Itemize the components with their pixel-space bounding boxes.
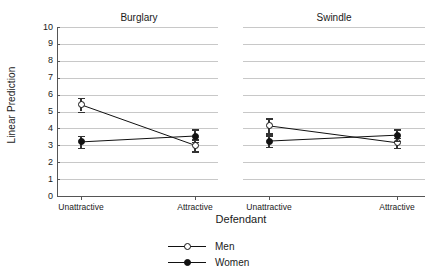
legend-marker-icon: [168, 240, 206, 252]
data-point-women: [78, 138, 85, 145]
x-axis-line: [57, 196, 425, 197]
legend-key-dot: [184, 243, 191, 250]
y-axis-tick-label: 10: [37, 23, 53, 32]
error-bar-cap: [192, 129, 199, 130]
error-bar-cap: [78, 112, 85, 113]
gridline: [243, 27, 425, 28]
error-bar-cap: [394, 141, 401, 142]
data-point-men: [78, 101, 85, 108]
y-axis-tick-label: 1: [37, 175, 53, 184]
series-line-women: [269, 135, 397, 141]
legend-label: Men: [206, 241, 234, 252]
legend-item-women: Women: [168, 254, 308, 270]
x-axis-tick-label: Unattractive: [234, 202, 304, 212]
y-axis-tick-mark: [57, 61, 60, 62]
gridline: [58, 27, 218, 28]
error-bar-cap: [192, 151, 199, 152]
y-axis-tick-mark: [57, 78, 60, 79]
y-axis-tick-label: 3: [37, 141, 53, 150]
y-axis-tick-labels: 012345678910: [33, 27, 53, 196]
x-axis-tick-mark: [397, 197, 398, 200]
error-bar-cap: [78, 148, 85, 149]
error-bar-cap: [266, 147, 273, 148]
y-axis-tick-mark: [57, 44, 60, 45]
error-bar-cap: [192, 142, 199, 143]
data-point-women: [394, 132, 401, 139]
gridline: [243, 61, 425, 62]
y-axis-tick-label: 7: [37, 73, 53, 82]
legend-marker-icon: [168, 256, 206, 268]
legend-key-dot: [184, 259, 191, 266]
error-bar-cap: [266, 135, 273, 136]
x-axis-title: Defendant: [57, 213, 425, 225]
gridline: [243, 179, 425, 180]
y-axis-tick-mark: [57, 162, 60, 163]
y-axis-title: Linear Prediction: [6, 5, 20, 205]
series-line-women: [81, 136, 195, 142]
error-bar-cap: [78, 136, 85, 137]
y-axis-tick-label: 6: [37, 90, 53, 99]
x-axis-tick-label: Unattractive: [46, 202, 116, 212]
x-axis-tick-label: Attractive: [160, 202, 230, 212]
y-axis-tick-mark: [57, 145, 60, 146]
y-axis-tick-mark: [57, 128, 60, 129]
data-point-men: [266, 122, 273, 129]
gridline: [243, 162, 425, 163]
x-axis-tick-label: Attractive: [362, 202, 432, 212]
y-axis-tick-label: 0: [37, 192, 53, 201]
data-point-women: [266, 138, 273, 145]
gridline: [243, 112, 425, 113]
gridline: [58, 95, 218, 96]
gridline: [58, 162, 218, 163]
linear-prediction-chart: Linear Prediction Burglary Swindle 01234…: [0, 0, 448, 278]
error-bar-cap: [266, 118, 273, 119]
y-axis-tick-mark: [57, 196, 60, 197]
panel-title-swindle: Swindle: [243, 12, 425, 23]
gridline: [58, 78, 218, 79]
gridline: [58, 61, 218, 62]
gridline: [58, 44, 218, 45]
y-axis-tick-label: 8: [37, 56, 53, 65]
gridline: [58, 179, 218, 180]
gridline: [243, 78, 425, 79]
x-axis-tick-mark: [195, 197, 196, 200]
error-bar-cap: [78, 98, 85, 99]
y-axis-tick-mark: [57, 112, 60, 113]
y-axis-title-wrapper: Linear Prediction: [6, 205, 20, 206]
gridline: [243, 44, 425, 45]
y-axis-tick-mark: [57, 27, 60, 28]
gridline: [243, 95, 425, 96]
plot-area: UnattractiveAttractiveUnattractiveAttrac…: [57, 27, 425, 196]
legend-label: Women: [206, 257, 249, 268]
y-axis-tick-label: 4: [37, 124, 53, 133]
error-bar-cap: [394, 148, 401, 149]
y-axis-tick-mark: [57, 95, 60, 96]
y-axis-tick-label: 9: [37, 39, 53, 48]
x-axis-tick-mark: [81, 197, 82, 200]
error-bar-cap: [394, 129, 401, 130]
data-point-women: [192, 133, 199, 140]
panel-title-burglary: Burglary: [58, 12, 220, 23]
chart-legend: MenWomen: [168, 238, 308, 270]
y-axis-tick-label: 2: [37, 158, 53, 167]
x-axis-tick-mark: [269, 197, 270, 200]
legend-item-men: Men: [168, 238, 308, 254]
y-axis-tick-label: 5: [37, 107, 53, 116]
y-axis-tick-mark: [57, 179, 60, 180]
